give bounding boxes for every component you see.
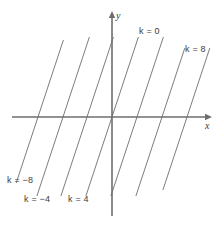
contour-label-k-0: k = 0 xyxy=(139,27,160,36)
contour-label-k-8: k = 8 xyxy=(185,45,206,54)
contour-line-k-8 xyxy=(163,48,210,190)
plot-canvas xyxy=(0,0,219,227)
contour-line-k-6 xyxy=(136,48,185,196)
x-axis-name-label: x xyxy=(205,121,209,131)
contour-label-k--8: k = −8 xyxy=(7,176,33,185)
contour-label-k--4: k = −4 xyxy=(24,195,50,204)
y-axis-arrowhead-icon xyxy=(109,11,115,18)
contour-label-k-4: k = 4 xyxy=(68,195,89,204)
y-axis-name-label: y xyxy=(116,11,120,21)
contour-line-k--8 xyxy=(16,40,63,183)
level-curve-figure: xyk = −8k = −4k = 0k = 4k = 8 xyxy=(0,0,219,227)
